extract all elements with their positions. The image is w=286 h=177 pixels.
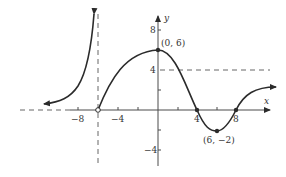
x-tick-label-4: 4	[194, 114, 200, 124]
x-tick-label-8: 8	[233, 114, 239, 124]
point-zero-8	[234, 108, 238, 112]
y-tick-label-4: 4	[150, 65, 156, 75]
max-point-label: (0, 6)	[161, 38, 185, 48]
function-graph: y x −8 −4 4 8 8 4 −4 (0, 6) (6, −2)	[0, 0, 286, 177]
point-zero-4	[195, 108, 199, 112]
point-max	[156, 48, 160, 52]
x-tick-label-neg4: −4	[111, 114, 125, 124]
open-point-neg6	[96, 108, 101, 113]
min-point-label: (6, −2)	[203, 135, 235, 145]
point-min	[215, 129, 219, 133]
y-tick-label-neg4: −4	[144, 145, 158, 155]
curve-left-branch	[44, 14, 94, 104]
y-tick-label-8: 8	[150, 25, 156, 35]
graph-canvas: y x −8 −4 4 8 8 4 −4 (0, 6) (6, −2)	[0, 0, 286, 177]
x-axis-label: x	[264, 96, 269, 106]
y-axis-label: y	[163, 13, 170, 23]
curve-right-branch	[98, 50, 276, 131]
x-tick-label-neg8: −8	[71, 114, 85, 124]
